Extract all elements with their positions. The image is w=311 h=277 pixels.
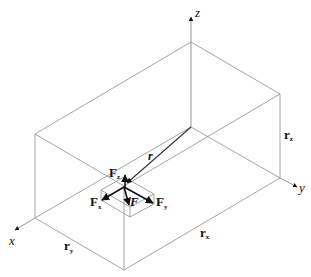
coordinate-axes: z y x xyxy=(8,5,305,248)
force-vector-diagram: z y x r Fz Fx Fy F xyxy=(0,0,311,277)
rz-label: rz xyxy=(284,127,293,143)
x-axis xyxy=(15,218,35,230)
f-label: F xyxy=(129,194,139,209)
fy-label: Fy xyxy=(156,194,168,211)
y-axis xyxy=(280,178,297,187)
position-vector-r xyxy=(127,127,191,183)
fz-label: Fz xyxy=(109,165,120,181)
z-axis-label: z xyxy=(194,5,200,20)
ry-label: ry xyxy=(64,238,74,255)
x-axis-label: x xyxy=(8,233,15,248)
force-fx-arrow xyxy=(102,187,124,200)
fx-label: Fx xyxy=(90,194,102,211)
position-vector-label: r xyxy=(148,149,153,163)
rx-label: rx xyxy=(200,225,210,241)
y-axis-label: y xyxy=(297,180,305,195)
